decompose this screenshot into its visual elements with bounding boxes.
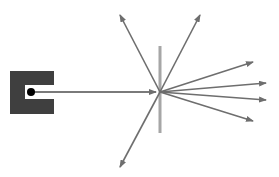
scattered-arrow-right-mid-lower: [160, 92, 266, 100]
scattered-arrow-down-left: [120, 92, 160, 167]
scattered-arrow-up-left: [120, 15, 160, 92]
scattered-arrow-right-lower: [160, 92, 253, 121]
scattering-diagram: [0, 0, 279, 177]
particle-dot-icon: [27, 88, 35, 96]
